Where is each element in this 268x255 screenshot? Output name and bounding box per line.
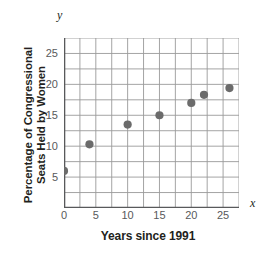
data-point [225,84,233,92]
data-point [200,91,208,99]
plot-area [64,38,239,208]
data-point [187,99,195,107]
x-axis-letter: x [250,196,255,211]
y-tick-label: 10 [36,140,58,152]
x-tick-label: 0 [61,209,67,221]
y-tick-label: 25 [36,47,58,59]
x-tick-label: 20 [185,209,197,221]
y-axis-title-line-1: Percentage of Congressional [22,47,35,203]
y-tick-label: 20 [36,78,58,90]
y-axis-letter: y [57,8,62,23]
scatter-plot-figure: Percentage of Congressional Seats Held b… [0,0,268,255]
axis-lines [64,38,239,208]
data-point [64,167,68,175]
x-tick-label: 15 [153,209,165,221]
data-point [124,120,132,128]
data-point [155,111,163,119]
plot-svg [64,38,239,208]
y-tick-label: 15 [36,109,58,121]
data-point [85,140,93,148]
y-tick-label: 5 [36,171,58,183]
grid-lines [64,38,239,208]
x-tick-label: 10 [122,209,134,221]
x-axis-title: Years since 1991 [52,229,244,243]
x-tick-label: 25 [217,209,229,221]
x-tick-label: 5 [93,209,99,221]
